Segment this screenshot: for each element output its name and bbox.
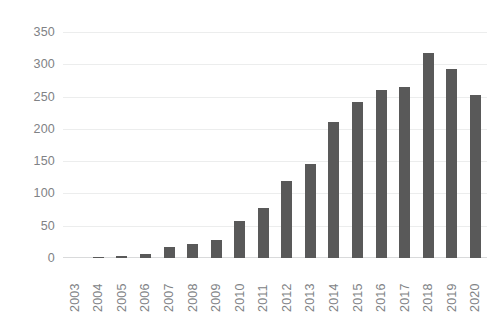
bar-slot: [299, 32, 323, 258]
bar-slot: [393, 32, 417, 258]
x-tick-slot: 2018: [416, 262, 440, 312]
bar[interactable]: [140, 254, 151, 258]
x-tick-slot: 2007: [157, 262, 181, 312]
y-tick-label: 50: [41, 219, 55, 233]
x-tick-slot: 2013: [299, 262, 323, 312]
x-tick-slot: 2019: [440, 262, 464, 312]
bar-slot: [252, 32, 276, 258]
x-tick-label: 2014: [327, 264, 341, 312]
bar-slot: [228, 32, 252, 258]
y-axis: 350 300 250 200 150 100 50 0: [0, 32, 55, 258]
x-tick-label: 2004: [91, 264, 105, 312]
x-tick-label: 2010: [233, 264, 247, 312]
y-tick-label: 350: [34, 25, 55, 39]
bar-series: [63, 32, 487, 258]
x-tick-slot: 2020: [464, 262, 488, 312]
x-tick-slot: 2008: [181, 262, 205, 312]
x-tick-label: 2015: [351, 264, 365, 312]
bar[interactable]: [93, 257, 104, 258]
bar[interactable]: [352, 102, 363, 258]
x-tick-slot: 2003: [63, 262, 87, 312]
bar-slot: [275, 32, 299, 258]
bar[interactable]: [187, 244, 198, 258]
x-tick-label: 2005: [115, 264, 129, 312]
y-tick-label: 100: [34, 186, 55, 200]
y-tick-label: 250: [34, 90, 55, 104]
bar[interactable]: [258, 208, 269, 258]
x-tick-label: 2007: [162, 264, 176, 312]
bar-slot: [416, 32, 440, 258]
bar-slot: [204, 32, 228, 258]
x-tick-slot: 2004: [87, 262, 111, 312]
bar-slot: [322, 32, 346, 258]
bar-slot: [346, 32, 370, 258]
x-tick-label: 2008: [186, 264, 200, 312]
x-tick-label: 2019: [445, 264, 459, 312]
bar[interactable]: [281, 181, 292, 258]
bar[interactable]: [399, 87, 410, 258]
x-tick-label: 2020: [468, 264, 482, 312]
x-tick-slot: 2005: [110, 262, 134, 312]
x-tick-label: 2011: [256, 264, 270, 312]
bar[interactable]: [446, 69, 457, 258]
bar[interactable]: [211, 240, 222, 258]
y-tick-label: 300: [34, 57, 55, 71]
bar-slot: [157, 32, 181, 258]
x-tick-label: 2018: [421, 264, 435, 312]
y-tick-label: 0: [48, 251, 55, 265]
x-tick-slot: 2014: [322, 262, 346, 312]
bar[interactable]: [328, 122, 339, 258]
x-tick-slot: 2011: [252, 262, 276, 312]
x-tick-slot: 2016: [369, 262, 393, 312]
x-tick-label: 2016: [374, 264, 388, 312]
bar-slot: [87, 32, 111, 258]
bar[interactable]: [305, 164, 316, 258]
bar[interactable]: [423, 53, 434, 258]
x-tick-label: 2013: [303, 264, 317, 312]
bar[interactable]: [116, 256, 127, 258]
x-tick-slot: 2009: [204, 262, 228, 312]
x-axis: 2003200420052006200720082009201020112012…: [63, 262, 487, 312]
y-tick-label: 150: [34, 154, 55, 168]
x-tick-label: 2006: [138, 264, 152, 312]
x-tick-slot: 2010: [228, 262, 252, 312]
x-tick-slot: 2015: [346, 262, 370, 312]
bar-slot: [63, 32, 87, 258]
bar[interactable]: [164, 247, 175, 258]
bar-slot: [464, 32, 488, 258]
x-tick-label: 2012: [280, 264, 294, 312]
x-tick-slot: 2017: [393, 262, 417, 312]
bar-slot: [181, 32, 205, 258]
bar[interactable]: [234, 221, 245, 258]
bar-slot: [440, 32, 464, 258]
x-tick-slot: 2012: [275, 262, 299, 312]
bar-chart: 350 300 250 200 150 100 50 0 20032004200…: [0, 0, 498, 315]
bar[interactable]: [376, 90, 387, 258]
bar-slot: [134, 32, 158, 258]
x-tick-label: 2003: [68, 264, 82, 312]
bar-slot: [369, 32, 393, 258]
x-tick-label: 2017: [398, 264, 412, 312]
x-tick-label: 2009: [209, 264, 223, 312]
bar-slot: [110, 32, 134, 258]
bar[interactable]: [470, 95, 481, 258]
y-tick-label: 200: [34, 122, 55, 136]
x-tick-slot: 2006: [134, 262, 158, 312]
